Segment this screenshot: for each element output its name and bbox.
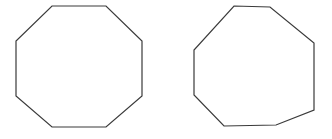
irregular-octagon-shape	[194, 6, 314, 126]
shapes-svg	[0, 0, 332, 139]
figure-canvas	[0, 0, 332, 139]
regular-octagon-shape	[16, 6, 142, 127]
